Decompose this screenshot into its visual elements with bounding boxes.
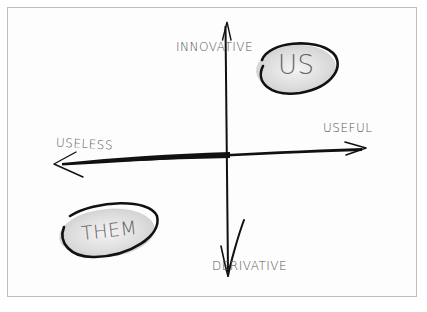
arrowhead-up-icon <box>223 22 232 40</box>
vertical-axis <box>221 22 244 276</box>
axis-label-useless: USELESS <box>56 136 114 153</box>
axis-label-derivative: DERIVATIVE <box>212 259 287 273</box>
axis-label-innovative: INNOVATIVE <box>176 40 253 54</box>
item-label-us: US <box>278 50 315 80</box>
axis-label-useful: USEFUL <box>323 121 372 135</box>
